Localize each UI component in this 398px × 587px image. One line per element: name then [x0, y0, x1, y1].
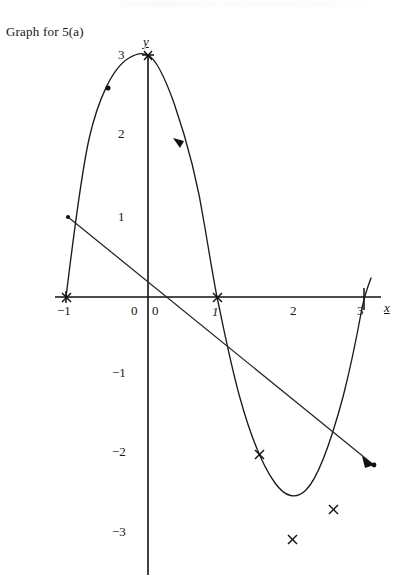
x-axis-label: x: [384, 300, 390, 316]
y-axis-label: y: [143, 34, 149, 50]
x-tick-label--1: −1: [57, 303, 71, 319]
x-tick-label-1: 1: [212, 304, 219, 320]
plot-area: 3 2 1 −1 −2 −3 −1 0 0 1 2 3 y x: [0, 0, 398, 587]
x-marker-trough: [288, 535, 297, 544]
graph-svg: [0, 0, 398, 587]
x-tick-label-2: 2: [290, 303, 297, 319]
curve-arrow-marker: [173, 138, 184, 148]
y-tick-label--1: −1: [112, 365, 126, 381]
line-endpoint-dot-left: [66, 215, 70, 219]
y-tick-label--3: −3: [112, 524, 126, 540]
y-tick-label-1: 1: [118, 209, 125, 225]
x-tick-label-3: 3: [357, 303, 364, 319]
y-tick-label--2: −2: [112, 444, 126, 460]
y-tick-label-2: 2: [118, 126, 125, 142]
cubic-curve: [66, 54, 371, 496]
y-tick-label-3: 3: [118, 47, 125, 63]
graph-page: Graph for 5(a): [0, 0, 398, 587]
curve-point-dot: [106, 86, 111, 91]
straight-line: [68, 217, 375, 466]
x-marker-2-55--2-38: [329, 505, 338, 514]
x-tick-label-0-left: 0: [131, 303, 138, 319]
x-tick-label-0-right: 0: [152, 303, 159, 319]
x-marker-1-75--2: [255, 450, 264, 459]
